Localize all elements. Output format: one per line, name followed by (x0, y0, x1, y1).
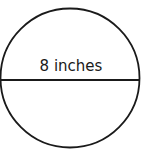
diameter-label: 8 inches (40, 57, 103, 75)
circle-outline (1, 9, 140, 148)
circle-diagram: 8 inches (0, 0, 142, 150)
